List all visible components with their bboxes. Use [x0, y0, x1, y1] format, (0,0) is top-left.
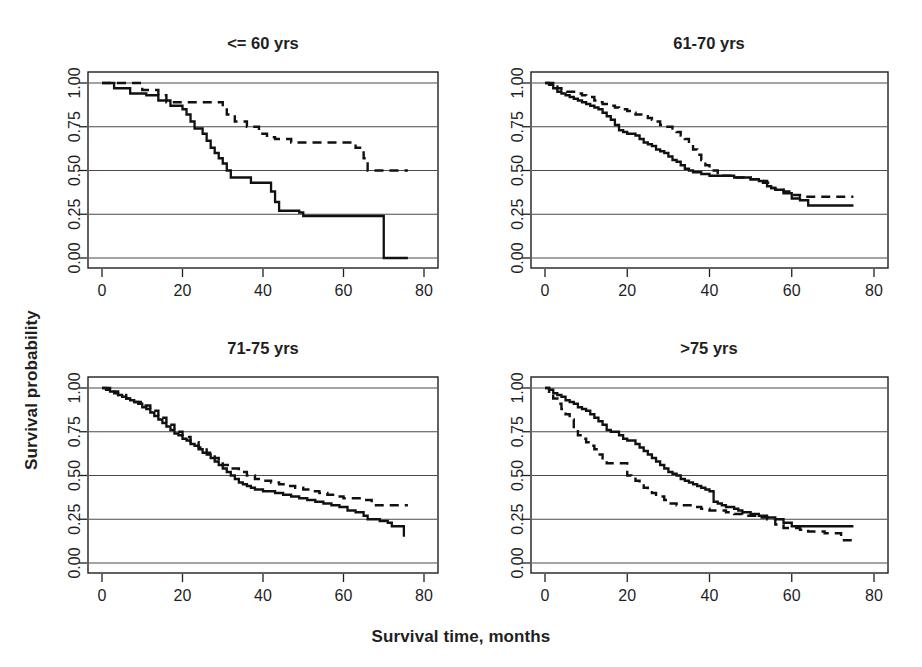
x-axis-title: Survival time, months	[0, 627, 922, 647]
y-tick-label: 0.00	[66, 242, 83, 273]
y-tick-label: 0.75	[66, 111, 83, 142]
y-tick-label: 1.00	[509, 67, 526, 98]
x-tick-label: 20	[618, 587, 636, 604]
survival-curve-solid-group	[545, 388, 853, 526]
x-tick-label: 0	[98, 587, 107, 604]
panel-title: 61-70 yrs	[673, 34, 745, 52]
y-tick-label: 0.50	[509, 460, 526, 491]
x-tick-label: 60	[335, 587, 353, 604]
x-tick-label: 40	[254, 587, 272, 604]
x-tick-label: 20	[174, 282, 192, 299]
panel-title: >75 yrs	[680, 339, 737, 357]
x-tick-label: 20	[618, 282, 636, 299]
x-tick-label: 80	[415, 282, 433, 299]
x-tick-label: 0	[98, 282, 107, 299]
y-tick-label: 0.50	[66, 460, 83, 491]
x-tick-label: 40	[701, 282, 719, 299]
y-tick-label: 0.75	[509, 111, 526, 142]
y-axis-title: Survival probability	[22, 310, 42, 470]
panel-panel-gt-75: 0204060800.000.250.500.751.00>75 yrs	[509, 339, 888, 604]
survival-curve-figure: 0204060800.000.250.500.751.00<= 60 yrs02…	[0, 0, 922, 667]
y-tick-label: 0.50	[66, 155, 83, 186]
x-tick-label: 60	[783, 282, 801, 299]
x-tick-label: 80	[415, 587, 433, 604]
y-tick-label: 0.75	[509, 416, 526, 447]
survival-curve-dashed-group	[545, 83, 853, 197]
y-tick-label: 0.00	[509, 547, 526, 578]
panel-title: <= 60 yrs	[227, 34, 299, 52]
x-tick-label: 0	[541, 587, 550, 604]
panel-panel-le-60: 0204060800.000.250.500.751.00<= 60 yrs	[66, 34, 438, 299]
panel-title: 71-75 yrs	[227, 339, 299, 357]
panel-panel-61-70: 0204060800.000.250.500.751.0061-70 yrs	[509, 34, 888, 299]
y-tick-label: 0.00	[509, 242, 526, 273]
x-tick-label: 20	[174, 587, 192, 604]
kaplan-meier-panel-grid: 0204060800.000.250.500.751.00<= 60 yrs02…	[0, 0, 922, 667]
y-tick-label: 0.25	[509, 199, 526, 230]
y-tick-label: 0.75	[66, 416, 83, 447]
panel-panel-71-75: 0204060800.000.250.500.751.0071-75 yrs	[66, 339, 438, 604]
y-tick-label: 0.25	[66, 199, 83, 230]
x-tick-label: 60	[335, 282, 353, 299]
survival-curve-solid-group	[102, 388, 404, 537]
y-tick-label: 1.00	[509, 372, 526, 403]
y-tick-label: 1.00	[66, 67, 83, 98]
x-tick-label: 80	[865, 587, 883, 604]
y-tick-label: 0.50	[509, 155, 526, 186]
x-tick-label: 40	[254, 282, 272, 299]
x-tick-label: 0	[541, 282, 550, 299]
y-tick-label: 1.00	[66, 372, 83, 403]
y-tick-label: 0.25	[509, 504, 526, 535]
x-tick-label: 40	[701, 587, 719, 604]
x-tick-label: 60	[783, 587, 801, 604]
x-tick-label: 80	[865, 282, 883, 299]
y-tick-label: 0.25	[66, 504, 83, 535]
survival-curve-solid-group	[545, 83, 853, 206]
y-tick-label: 0.00	[66, 547, 83, 578]
